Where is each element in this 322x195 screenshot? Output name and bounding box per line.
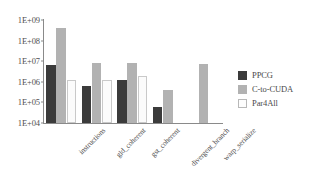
legend-label: C-to-CUDA <box>252 84 293 94</box>
chart-legend: PPCGC-to-CUDAPar4All <box>238 68 293 110</box>
bar-chart: 1E+091E+081E+071E+061E+051E+04 PPCGC-to-… <box>0 0 322 195</box>
bar <box>46 65 56 123</box>
bar-group <box>186 20 222 123</box>
plot-area: 1E+091E+081E+071E+061E+051E+04 <box>44 20 222 123</box>
bar <box>117 80 127 123</box>
legend-item: Par4All <box>238 96 293 110</box>
legend-swatch-icon <box>238 85 247 94</box>
legend-swatch-icon <box>238 71 247 80</box>
bar-group <box>115 20 151 123</box>
bar <box>199 64 209 123</box>
legend-label: PPCG <box>252 70 273 80</box>
bar <box>138 76 148 123</box>
bar <box>67 80 77 123</box>
x-axis-tick-label: divergent_branch <box>189 126 231 168</box>
legend-item: C-to-CUDA <box>238 82 293 96</box>
bar <box>163 90 173 123</box>
x-axis-tick-label: instructions <box>77 126 107 156</box>
x-axis-tick-label: gst_coherent <box>149 126 182 159</box>
x-axis-tick-label: gld_coherent <box>114 126 147 159</box>
bar <box>82 86 92 123</box>
bar <box>92 63 102 123</box>
legend-label: Par4All <box>252 98 278 108</box>
bar <box>102 80 112 123</box>
bar <box>127 63 137 123</box>
bar-group <box>151 20 187 123</box>
legend-item: PPCG <box>238 68 293 82</box>
bar-group <box>80 20 116 123</box>
legend-swatch-icon <box>238 99 247 108</box>
bar-group <box>44 20 80 123</box>
bar <box>56 28 66 123</box>
bar <box>153 107 163 123</box>
x-axis-line <box>43 123 223 124</box>
